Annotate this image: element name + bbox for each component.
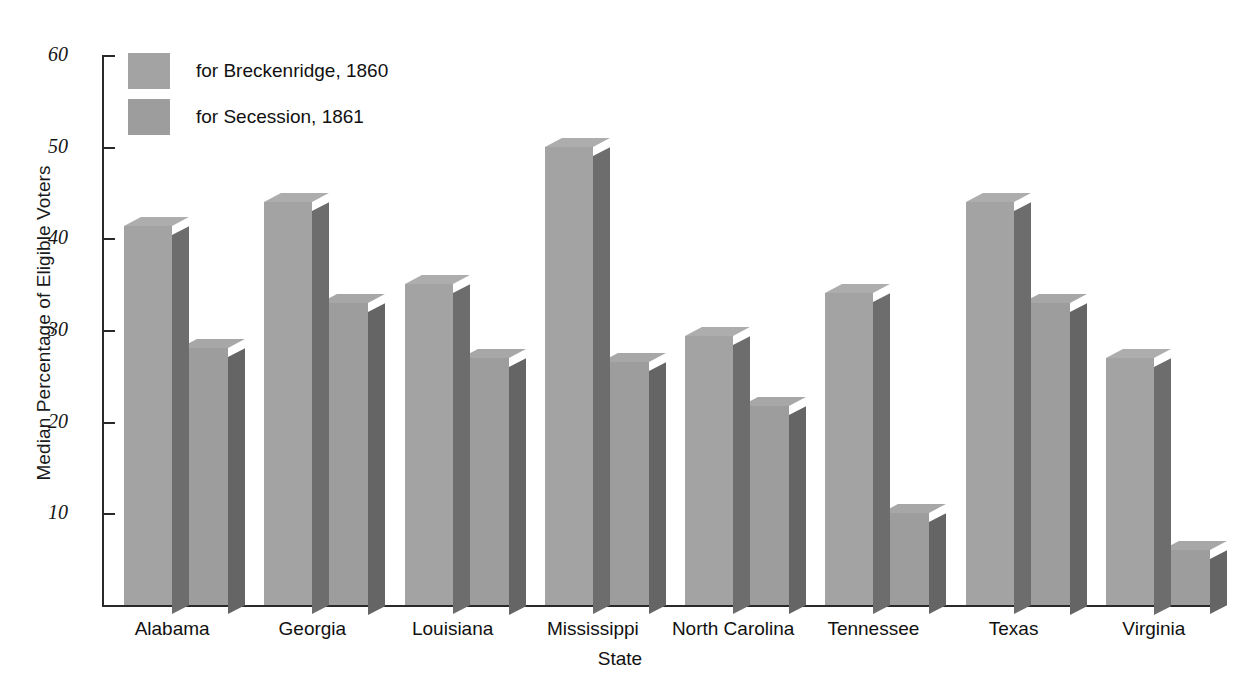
bar-top [1162,541,1227,550]
bar-georgia-series-1 [264,202,312,605]
x-axis-title: State [0,648,1240,670]
x-tick-label-mississippi: Mississippi [523,618,663,640]
bar-side [789,406,806,614]
bar-top [545,138,610,147]
bar-side [1070,303,1087,614]
y-tick-label: 50 [0,135,68,158]
x-tick-label-virginia: Virginia [1084,618,1224,640]
y-tick-mark [102,238,115,240]
bar-side [649,362,666,614]
legend-label: for Secession, 1861 [196,106,364,128]
bar-side [1154,358,1171,614]
y-tick-mark [102,147,115,149]
bar-group [545,55,666,605]
bar-side [172,227,189,614]
y-tick-label: 60 [0,43,68,66]
legend-swatch-icon [128,99,170,135]
x-tick-label-georgia: Georgia [242,618,382,640]
bar-face [825,293,873,605]
legend-swatch-icon [128,53,170,89]
bar-top [320,294,385,303]
bar-top [601,353,666,362]
legend-label: for Breckenridge, 1860 [196,60,388,82]
bar-group [966,55,1087,605]
y-tick-label: 30 [0,318,68,341]
bar-side [368,303,385,614]
bar-top [1022,294,1087,303]
bar-top [405,275,470,284]
y-tick-mark [102,330,115,332]
bar-group [1106,55,1227,605]
y-tick-label: 40 [0,226,68,249]
bar-top [180,339,245,348]
bar-top [825,284,890,293]
y-tick-mark [102,55,115,57]
chart-legend: for Breckenridge, 1860 for Secession, 18… [128,48,388,140]
bar-virginia-series-1 [1106,358,1154,606]
bar-group [685,55,806,605]
bar-side [929,514,946,614]
legend-item-breckenridge: for Breckenridge, 1860 [128,48,388,94]
bar-top [1106,349,1171,358]
x-tick-label-north-carolina: North Carolina [663,618,803,640]
bar-top [264,193,329,202]
bar-side [593,147,610,614]
bar-face [685,336,733,605]
bar-face [545,147,593,605]
bar-side [873,294,890,614]
bar-texas-series-1 [966,202,1014,605]
bar-louisiana-series-1 [405,284,453,605]
bar-top [966,193,1031,202]
bar-face [124,226,172,605]
bar-side [312,202,329,614]
bar-face [1106,358,1154,606]
bar-side [1014,202,1031,614]
x-tick-label-louisiana: Louisiana [383,618,523,640]
x-tick-label-texas: Texas [944,618,1084,640]
bar-side [453,285,470,614]
bar-tennessee-series-1 [825,293,873,605]
y-tick-label: 10 [0,501,68,524]
bar-top [461,349,526,358]
bar-top [124,217,189,226]
bar-top [741,397,806,406]
bar-side [228,349,245,614]
bar-top [685,327,750,336]
legend-item-secession: for Secession, 1861 [128,94,388,140]
x-tick-label-tennessee: Tennessee [803,618,943,640]
y-tick-mark [102,513,115,515]
x-tick-label-alabama: Alabama [102,618,242,640]
bar-face [966,202,1014,605]
bar-side [509,358,526,614]
bar-mississippi-series-1 [545,147,593,605]
bar-top [881,504,946,513]
y-tick-label: 20 [0,410,68,433]
bar-chart: Median Percentage of Eligible Voters 102… [0,0,1240,688]
bar-group [825,55,946,605]
bar-side [1210,550,1227,614]
bar-group [405,55,526,605]
y-tick-mark [102,422,115,424]
bar-face [405,284,453,605]
bar-face [264,202,312,605]
bar-side [733,337,750,614]
bar-north-carolina-series-1 [685,336,733,605]
bar-alabama-series-1 [124,226,172,605]
